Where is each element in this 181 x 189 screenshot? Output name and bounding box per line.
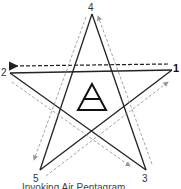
star-edge-2-3 bbox=[10, 73, 146, 170]
pentagram-diagram: 1 2 3 4 5 bbox=[0, 0, 181, 189]
vertex-label-3: 3 bbox=[142, 173, 148, 184]
guide-arrow-2-3 bbox=[12, 82, 130, 166]
guide-arrows bbox=[12, 16, 168, 176]
air-triangle-icon bbox=[78, 84, 106, 110]
star-edge-3-4 bbox=[92, 14, 146, 170]
caption-partial: Invoking Air Pentagram bbox=[22, 183, 125, 189]
vertex-label-4: 4 bbox=[88, 2, 94, 13]
vertex-label-1: 1 bbox=[173, 62, 179, 74]
star-edge-5-1 bbox=[40, 70, 172, 170]
star-edge-4-5 bbox=[40, 14, 92, 170]
star-lines bbox=[10, 14, 172, 170]
first-stroke-arrow-1-2 bbox=[16, 64, 168, 66]
guide-arrow-4-5 bbox=[34, 17, 86, 160]
star-edge-1-2 bbox=[10, 70, 172, 73]
vertex-label-2: 2 bbox=[1, 67, 7, 78]
